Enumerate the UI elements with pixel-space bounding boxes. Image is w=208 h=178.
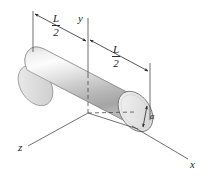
cylinder-solid [11,47,160,138]
axis-label-z: z [18,142,22,153]
axis-label-x: x [190,159,195,170]
cylinder-figure: L 2 L 2 y x z a [0,0,208,178]
label-left-half-length: L 2 [52,13,60,38]
axis-label-y: y [78,13,83,24]
label-right-length-numerator: L [112,44,120,56]
radius-label-a: a [150,112,155,121]
label-left-length-numerator: L [52,13,60,25]
axis-z-solid [28,113,88,146]
label-left-length-denominator: 2 [52,26,60,38]
figure-canvas [0,0,208,178]
label-right-length-denominator: 2 [112,57,120,69]
axis-x-solid [132,126,188,159]
label-right-half-length: L 2 [112,44,120,69]
